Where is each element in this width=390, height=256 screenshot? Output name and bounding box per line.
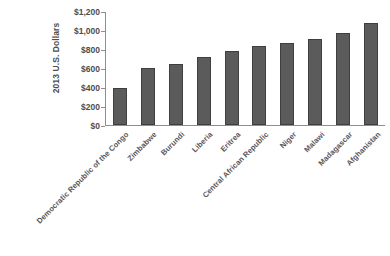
- bar-slot: [218, 12, 246, 125]
- bar[interactable]: [141, 68, 155, 125]
- y-axis-tick-label: $200: [64, 102, 100, 112]
- bar[interactable]: [197, 57, 211, 125]
- x-axis-category-labels: Democratic Republic of the CongoZimbabwe…: [105, 126, 385, 256]
- bar-slot: [357, 12, 385, 125]
- y-axis-tick-mark: [101, 50, 105, 51]
- y-axis-tick-label: $400: [64, 83, 100, 93]
- y-axis-tick-mark: [101, 126, 105, 127]
- y-axis-tick-label: $1,200: [64, 7, 100, 17]
- y-axis-title: 2013 U.S. Dollars: [46, 0, 66, 116]
- x-axis-category-label: Niger: [278, 130, 298, 150]
- bar[interactable]: [252, 46, 266, 125]
- x-axis-category-label: Malawi: [302, 130, 326, 154]
- bar[interactable]: [308, 39, 322, 125]
- bar-slot: [190, 12, 218, 125]
- x-axis-category-label: Burundi: [159, 130, 186, 157]
- x-axis-category-label: Zimbabwe: [125, 130, 158, 163]
- y-axis-tick-label: $600: [64, 64, 100, 74]
- bar[interactable]: [280, 43, 294, 125]
- bar[interactable]: [113, 88, 127, 125]
- bar-slot: [162, 12, 190, 125]
- plot-area: [105, 12, 385, 126]
- x-axis-category-label: Democratic Republic of the Congo: [35, 130, 131, 226]
- bar-slot: [106, 12, 134, 125]
- x-axis-category-label: Eritrea: [219, 130, 243, 154]
- bar-slot: [329, 12, 357, 125]
- y-axis-tick-label: $0: [64, 121, 100, 131]
- y-axis-tick-mark: [101, 31, 105, 32]
- bars-layer: [106, 12, 385, 125]
- bar[interactable]: [169, 64, 183, 125]
- y-axis-tick-label: $1,000: [64, 26, 100, 36]
- bar-slot: [246, 12, 274, 125]
- bar-slot: [134, 12, 162, 125]
- bar-chart: 2013 U.S. Dollars $0$200$400$600$800$1,0…: [0, 0, 390, 256]
- y-axis-tick-labels: $0$200$400$600$800$1,000$1,200: [64, 12, 100, 126]
- y-axis-tick-mark: [101, 88, 105, 89]
- y-axis-tick-mark: [101, 69, 105, 70]
- bar[interactable]: [336, 33, 350, 125]
- y-axis-tick-mark: [101, 107, 105, 108]
- bar[interactable]: [225, 51, 239, 125]
- bar[interactable]: [364, 23, 378, 125]
- bar-slot: [301, 12, 329, 125]
- y-axis-tick-mark: [101, 12, 105, 13]
- x-axis-category-label: Liberia: [190, 130, 214, 154]
- y-axis-tick-label: $800: [64, 45, 100, 55]
- bar-slot: [273, 12, 301, 125]
